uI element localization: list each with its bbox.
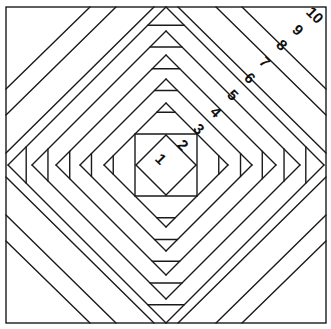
corner-diagonal-seam (6, 7, 90, 89)
diagonal-seam (32, 31, 166, 165)
diagonal-seam (56, 55, 166, 165)
pineapple-quilt-diagram: 12345678910 (0, 0, 331, 329)
corner-diagonal-seam (6, 241, 90, 323)
diagonal-seam (166, 165, 324, 323)
diagonal-seam (166, 165, 300, 299)
piecing-lines (6, 7, 326, 323)
diagonal-seam (8, 165, 166, 323)
piece-number-labels: 12345678910 (152, 3, 327, 168)
diagonal-seam (6, 7, 154, 153)
piece-label-5: 5 (224, 86, 242, 104)
diagonal-seam (32, 165, 166, 299)
diagonal-seam (166, 165, 276, 275)
center-diamond-edge (136, 165, 166, 195)
diagonal-seam (80, 79, 166, 165)
diagonal-seam (8, 7, 166, 165)
diagonal-seam (178, 177, 326, 323)
piece-label-1: 1 (152, 150, 170, 168)
piece-label-8: 8 (273, 36, 291, 54)
diagonal-seam (166, 165, 252, 251)
center-diamond-edge (166, 165, 196, 195)
corner-diagonal-seam (242, 241, 326, 323)
diagonal-seam (56, 165, 166, 275)
diagonal-seam (80, 165, 166, 251)
piece-label-9: 9 (289, 21, 307, 39)
diagonal-seam (6, 177, 154, 323)
